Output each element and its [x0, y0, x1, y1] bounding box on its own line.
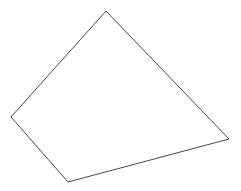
- figure-svg: [0, 0, 241, 191]
- drawing-canvas: [0, 0, 241, 191]
- quadrilateral-outline: [11, 11, 229, 182]
